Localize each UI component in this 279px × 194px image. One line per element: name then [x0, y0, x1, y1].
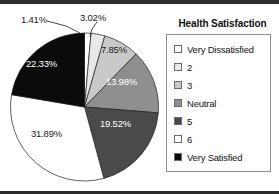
legend-item-label: Very Dissatisfied	[187, 44, 254, 55]
legend-swatch-icon	[174, 63, 182, 71]
legend-title: Health Satisfaction	[166, 18, 279, 29]
pie-chart-svg	[0, 0, 166, 194]
legend-swatch-icon	[174, 153, 182, 161]
pie-slice-value-label: 3.02%	[80, 12, 106, 23]
legend-swatch-icon	[174, 99, 182, 107]
legend-swatch-icon	[174, 81, 182, 89]
legend-item[interactable]: 5	[174, 112, 264, 130]
pie-slice-value-label: 31.89%	[31, 128, 62, 139]
legend-item[interactable]: Very Satisfied	[174, 148, 264, 166]
legend-swatch-icon	[174, 117, 182, 125]
pie-slice-value-label: 19.52%	[100, 118, 131, 129]
pie-slice-value-label: 1.41%	[21, 14, 47, 25]
legend-item[interactable]: Neutral	[174, 94, 264, 112]
legend-item-label: 5	[187, 116, 192, 127]
pie-chart-screenshot: 1.41%3.02%7.85%13.98%19.52%31.89%22.33% …	[0, 0, 279, 194]
legend-item[interactable]: 3	[174, 76, 264, 94]
legend-item[interactable]: 6	[174, 130, 264, 148]
chart-legend: Health Satisfaction Very Dissatisfied23N…	[166, 18, 279, 172]
legend-item-label: 2	[187, 62, 192, 73]
pie-slice-value-label: 13.98%	[106, 76, 137, 87]
legend-item-label: 3	[187, 80, 192, 91]
legend-item-label: Neutral	[187, 98, 216, 109]
pie-slice-value-label: 7.85%	[101, 44, 127, 55]
legend-item[interactable]: Very Dissatisfied	[174, 40, 264, 58]
pie-slice[interactable]	[12, 33, 85, 107]
legend-item-label: Very Satisfied	[187, 152, 242, 163]
legend-swatch-icon	[174, 45, 182, 53]
legend-box: Very Dissatisfied23Neutral56Very Satisfi…	[166, 34, 271, 172]
pie-slice-value-label: 22.33%	[26, 58, 57, 69]
legend-swatch-icon	[174, 135, 182, 143]
callout-line-1	[47, 21, 80, 33]
pie-slice-group	[11, 33, 159, 181]
legend-item-label: 6	[187, 134, 192, 145]
legend-item[interactable]: 2	[174, 58, 264, 76]
pie-chart-area: 1.41%3.02%7.85%13.98%19.52%31.89%22.33%	[0, 0, 166, 194]
